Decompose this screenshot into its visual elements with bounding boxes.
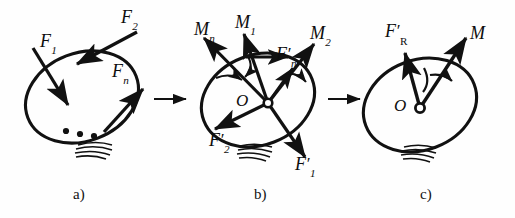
center-point-b [264,99,273,108]
label-F1-a: F1 [40,32,57,54]
caption-panel-a: a) [73,186,85,203]
panel-c [350,38,491,168]
label-Mn-b: Mn [194,20,215,42]
label-F2-a: F2 [121,8,138,30]
caption-panel-b: b) [254,186,267,203]
vector-Fn-a [104,89,143,132]
label-M-c: M [470,24,485,42]
panel-a [12,32,152,159]
ellipsis-dots-a [63,128,97,139]
label-FR-prime-c: F′R [385,22,407,44]
vector-F1-prime-b [268,103,305,157]
body-outline-a [12,35,152,159]
label-M2-b: M2 [310,24,331,46]
caption-panel-c: c) [420,186,432,203]
label-O-c: O [394,97,406,114]
label-F1-prime-b: F′1 [295,155,315,177]
label-Fn-a: Fn [112,62,129,84]
rotation-arc-c [423,68,427,92]
label-Fn-prime-b: F′n [276,45,296,67]
label-F2-prime-b: F′2 [209,131,229,153]
label-M1-b: M1 [235,13,256,35]
label-O-b: O [236,92,248,109]
center-point-c [415,103,424,112]
vector-F2-a [77,32,137,64]
hatching-a [75,143,112,160]
